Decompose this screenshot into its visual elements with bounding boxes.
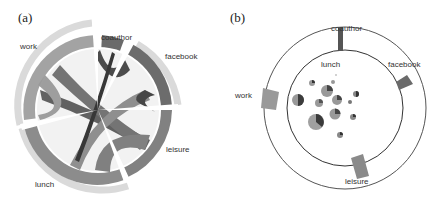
inner-ring [287,50,403,166]
panel-b-label: (b) [230,10,245,26]
ring-bubble-svg [216,0,432,201]
label-facebook: facebook [165,52,197,61]
label-facebook: facebook [388,60,420,69]
panel-a-label: (a) [18,10,32,26]
panel-a-chord-diagram: (a) work coauthor facebook leisure lunch [0,0,216,201]
label-work: work [235,91,252,100]
bubble-pies [292,74,359,138]
panel-b-ring-bubbles: (b) coauthor facebook work leisure lunch [216,0,432,201]
label-coauthor: coauthor [331,24,362,33]
label-lunch: lunch [321,60,340,69]
label-leisure: leisure [345,177,369,186]
label-lunch: lunch [35,180,54,189]
label-leisure: leisure [166,145,190,154]
label-work: work [20,42,37,51]
chord-diagram-svg [0,0,216,201]
label-coauthor: coauthor [101,33,132,42]
outer-ring [264,27,426,189]
